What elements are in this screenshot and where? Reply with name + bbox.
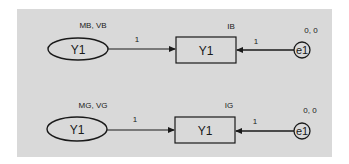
intercept-label: IB xyxy=(227,22,235,31)
observed-variable-node[interactable]: Y1 xyxy=(175,117,235,143)
error-term-node[interactable]: e1 xyxy=(294,42,310,58)
observed-variable-node[interactable]: Y1 xyxy=(176,37,236,63)
observed-label: Y1 xyxy=(198,124,213,138)
path-weight-label: 1 xyxy=(254,37,259,46)
latent-label: Y1 xyxy=(71,43,86,57)
latent-label: Y1 xyxy=(70,123,85,137)
error-params-label: 0, 0 xyxy=(303,106,317,115)
path-diagram-svg: Y1 MB, VB 1 Y1 IB 1 e1 0, 0 xyxy=(0,0,349,164)
path-weight-label: 1 xyxy=(253,117,258,126)
latent-variable-node[interactable]: Y1 xyxy=(48,38,108,60)
error-params-label: 0, 0 xyxy=(304,26,318,35)
path-weight-label: 1 xyxy=(133,115,138,124)
error-term-node[interactable]: e1 xyxy=(294,123,310,139)
latent-params-label: MG, VG xyxy=(79,101,108,110)
error-label: e1 xyxy=(296,125,308,137)
latent-variable-node[interactable]: Y1 xyxy=(47,117,107,141)
path-weight-label: 1 xyxy=(135,35,140,44)
latent-params-label: MB, VB xyxy=(79,21,106,30)
error-label: e1 xyxy=(296,44,308,56)
intercept-label: IG xyxy=(225,101,233,110)
model-b-group: Y1 MB, VB 1 Y1 IB 1 e1 0, 0 xyxy=(48,21,318,63)
model-g-group: Y1 MG, VG 1 Y1 IG 1 e1 0, 0 xyxy=(47,101,317,143)
path-diagram-canvas: Y1 MB, VB 1 Y1 IB 1 e1 0, 0 xyxy=(0,0,349,164)
observed-label: Y1 xyxy=(199,44,214,58)
